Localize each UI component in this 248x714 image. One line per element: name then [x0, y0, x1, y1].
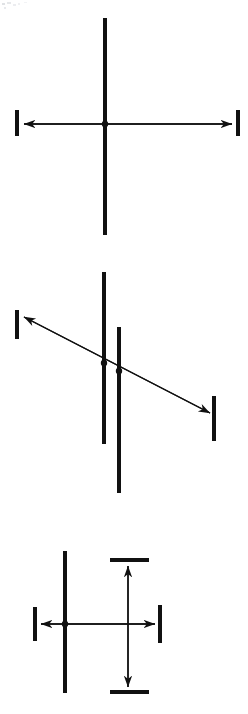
panel-3-pivot-dot [62, 621, 68, 627]
diagram-canvas [0, 0, 248, 714]
panel-1-pivot-dot [102, 121, 108, 127]
figure-sheet [0, 0, 248, 714]
page-background [0, 0, 248, 714]
panel-2-pivot-dot-right [116, 368, 122, 374]
panel-2-pivot-dot-left [101, 360, 107, 366]
